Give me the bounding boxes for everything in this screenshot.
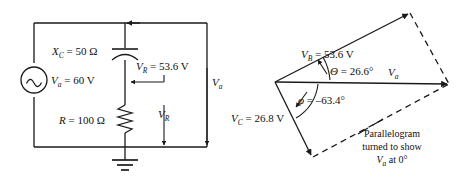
va-branch-label: Va (212, 76, 223, 91)
theta-angle-marker (318, 57, 330, 80)
caption-line-1: Parallelogram (364, 128, 420, 139)
caption-line-2: turned to show (362, 141, 422, 152)
vr-callout-label: VR = 53.6 V (136, 60, 189, 75)
capacitor-symbol (112, 23, 138, 82)
ground-symbol (112, 147, 138, 170)
ac-source-label: Va = 60 V (51, 74, 95, 89)
capacitor-label: XC = 50 Ω (51, 45, 97, 60)
parallelogram-caption: Parallelogram turned to show Va at 0° (362, 128, 422, 168)
resistor-label: R = 100 Ω (58, 114, 105, 126)
vb-phasor-label: VB = 53.6 V (301, 48, 354, 63)
phasor-diagram: VB = 53.6 V VC = 26.8 V Va Θ = 26.6° φ =… (231, 13, 449, 168)
va-phasor-label: Va (388, 66, 399, 81)
circuit-schematic: XC = 50 Ω Va = 60 V R = 100 Ω VR = 53.6 … (21, 23, 223, 170)
figure-svg: XC = 50 Ω Va = 60 V R = 100 Ω VR = 53.6 … (0, 0, 473, 181)
vr-callout-leader (131, 75, 164, 82)
phi-label: φ = –63.4° (298, 94, 345, 106)
theta-label: Θ = 26.6° (330, 65, 373, 77)
va-resultant-arrow (275, 82, 447, 84)
figure-canvas: XC = 50 Ω Va = 60 V R = 100 Ω VR = 53.6 … (0, 0, 473, 181)
resistor-symbol (118, 105, 132, 147)
parallelogram-dashed-right (410, 13, 449, 84)
vr-branch-label: VR (158, 108, 170, 123)
vc-phasor-label: VC = 26.8 V (231, 112, 284, 127)
caption-line-3: Va at 0° (376, 154, 407, 168)
ac-source-symbol (21, 67, 47, 93)
